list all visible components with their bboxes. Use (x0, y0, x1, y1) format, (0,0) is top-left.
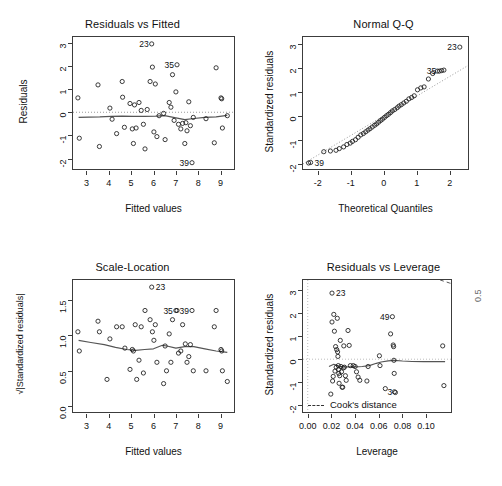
x-tick-mark (221, 171, 222, 175)
point-label: 39 (176, 306, 189, 316)
x-tick-mark (417, 171, 418, 175)
y-tick-mark (298, 164, 302, 165)
y-tick-mark (68, 159, 72, 160)
y-tick-mark (298, 405, 302, 406)
y-tick-mark (298, 68, 302, 69)
x-tick-mark (131, 171, 132, 175)
y-tick-label: 2 (289, 314, 298, 339)
y-tick-mark (68, 300, 72, 301)
y-tick-label: 1.0 (59, 336, 68, 361)
x-tick-mark (198, 171, 199, 175)
y-tick-mark (298, 382, 302, 383)
legend-label-cooks-distance: Cook's distance (330, 399, 397, 410)
y-tick-label: 2 (289, 69, 298, 94)
x-tick-mark (131, 414, 132, 418)
x-tick-mark (221, 414, 222, 418)
x-tick-mark (426, 414, 427, 418)
plot-canvas-residuals-vs-fitted (73, 37, 234, 169)
y-tick-label: -1 (289, 383, 298, 408)
y-tick-mark (68, 66, 72, 67)
x-tick-label: 0.10 (410, 422, 442, 431)
x-tick-mark (154, 171, 155, 175)
x-tick-mark (109, 171, 110, 175)
y-tick-label: 1 (289, 93, 298, 118)
point-label: 39 (176, 158, 189, 168)
point-label: 23 (136, 39, 149, 49)
x-tick-mark (176, 171, 177, 175)
x-tick-mark (355, 414, 356, 418)
y-tick-label: 3 (289, 45, 298, 70)
x-tick-mark (379, 414, 380, 418)
y-tick-mark (298, 313, 302, 314)
y-tick-label: 3 (59, 43, 68, 68)
y-tick-mark (298, 44, 302, 45)
y-tick-label: 0 (289, 360, 298, 385)
y-tick-label: 2 (59, 66, 68, 91)
point-label: 35 (423, 66, 436, 76)
panel-residuals-vs-fitted: Residuals vs Fitted 233539-2-10123345678… (0, 0, 251, 243)
y-tick-label: -1 (59, 136, 68, 161)
y-tick-mark (298, 140, 302, 141)
panel-residuals-vs-leverage: Residuals vs Leverage 23493Cook's distan… (251, 243, 502, 486)
x-tick-label: 1 (401, 179, 433, 188)
x-tick-mark (176, 414, 177, 418)
x-tick-mark (198, 414, 199, 418)
point-label: 3 (379, 387, 392, 397)
y-tick-label: -2 (59, 159, 68, 184)
panel-normal-qq: Normal Q-Q 233539-2-10123-2-1012 Standar… (251, 0, 502, 243)
x-tick-mark (318, 171, 319, 175)
y-tick-mark (298, 336, 302, 337)
x-tick-mark (86, 171, 87, 175)
y-tick-label: 1 (59, 90, 68, 115)
x-tick-label: -1 (335, 179, 367, 188)
x-axis-title-normal-qq: Theoretical Quantiles (302, 203, 469, 214)
x-axis-title-residuals-vs-fitted: Fitted values (72, 203, 235, 214)
point-label: 35 (160, 306, 173, 316)
y-tick-label: 0.0 (59, 407, 68, 432)
plot-area-scale-location (72, 279, 235, 413)
x-tick-mark (308, 414, 309, 418)
y-tick-label: 0 (59, 113, 68, 138)
y-tick-mark (68, 112, 72, 113)
x-tick-mark (351, 171, 352, 175)
plot-title-scale-location: Scale-Location (20, 261, 245, 273)
y-tick-label: 1 (289, 337, 298, 362)
y-tick-mark (68, 89, 72, 90)
plot-area-normal-qq (302, 36, 469, 170)
y-tick-mark (68, 406, 72, 407)
x-axis-title-residuals-vs-leverage: Leverage (302, 446, 452, 457)
y-axis-title-residuals-vs-leverage: Standardized residuals (264, 291, 275, 399)
plot-area-residuals-vs-leverage (302, 279, 452, 413)
y-tick-mark (298, 116, 302, 117)
y-tick-label: 1.5 (59, 300, 68, 325)
y-tick-label: 0 (289, 117, 298, 142)
plot-area-residuals-vs-fitted (72, 36, 235, 170)
y-axis-title-residuals-vs-fitted: Residuals (18, 57, 29, 147)
x-tick-mark (384, 171, 385, 175)
plot-title-residuals-vs-leverage: Residuals vs Leverage (273, 261, 494, 273)
point-label: 23 (336, 288, 345, 298)
y-axis-title-normal-qq: Standardized residuals (264, 48, 275, 156)
y-axis-title-scale-location: √|Standardized residuals| (15, 278, 25, 410)
x-tick-mark (450, 171, 451, 175)
y-tick-mark (298, 290, 302, 291)
point-label: 49 (376, 312, 389, 322)
x-tick-label: 9 (205, 422, 237, 431)
y-tick-mark (68, 135, 72, 136)
cooks-contour-level-label: 0.5 (474, 290, 483, 314)
x-tick-label: 9 (205, 179, 237, 188)
x-tick-mark (402, 414, 403, 418)
diagnostic-plot-figure: Residuals vs Fitted 233539-2-10123345678… (0, 0, 502, 486)
y-tick-mark (298, 92, 302, 93)
point-label: 23 (156, 282, 165, 292)
y-tick-mark (68, 371, 72, 372)
y-tick-label: -2 (289, 165, 298, 190)
y-tick-label: 0.5 (59, 371, 68, 396)
y-tick-mark (298, 359, 302, 360)
plot-title-normal-qq: Normal Q-Q (273, 18, 494, 30)
panel-scale-location: Scale-Location 2335390.00.51.01.53456789… (0, 243, 251, 486)
y-tick-mark (68, 335, 72, 336)
point-label: 23 (444, 42, 457, 52)
x-tick-mark (154, 414, 155, 418)
x-tick-mark (109, 414, 110, 418)
